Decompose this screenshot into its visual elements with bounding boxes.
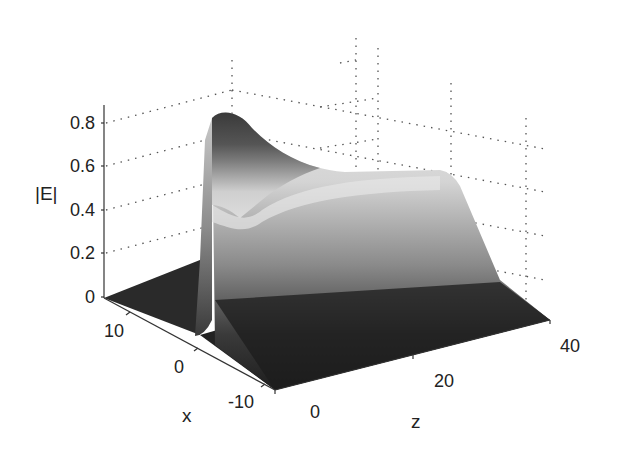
x-axis-label: x [182, 405, 192, 426]
tick-0.2: 0.2 [70, 243, 95, 263]
x-tick-neg10: -10 [228, 392, 254, 412]
z-axis-label: z [411, 411, 421, 432]
vertical-axis-label: |E| [35, 183, 58, 204]
tick-0: 0 [85, 287, 95, 307]
x-tick-0: 0 [174, 357, 184, 377]
z-tick-20: 20 [434, 371, 454, 391]
tick-0.8: 0.8 [70, 113, 95, 133]
tick-0.6: 0.6 [70, 156, 95, 176]
surface-plot: 0.8 0.6 0.4 0.2 0 |E| [0, 0, 621, 456]
z-tick-0: 0 [310, 402, 320, 422]
tick-0.4: 0.4 [70, 200, 95, 220]
vertical-axis: 0.8 0.6 0.4 0.2 0 |E| [35, 105, 104, 307]
surface [104, 113, 550, 390]
z-tick-40: 40 [560, 336, 580, 356]
x-tick-10: 10 [104, 321, 124, 341]
